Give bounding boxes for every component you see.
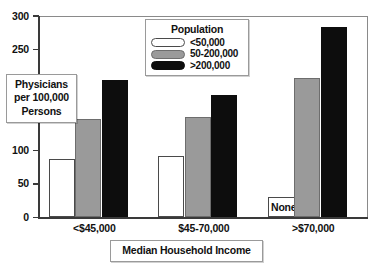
y-tick-label-250: 250 — [12, 44, 29, 55]
legend-title: Population — [151, 23, 243, 36]
y-axis-title: Physiciansper 100,000Persons — [6, 74, 77, 123]
y-axis-title-line-1: per 100,000 — [10, 91, 73, 104]
legend-swatch-icon — [151, 61, 185, 70]
y-tick-label-50: 50 — [18, 178, 29, 189]
legend-entry-label: 50-200,000 — [190, 49, 238, 59]
x-category-label: $45-70,000 — [149, 223, 258, 234]
legend: Population <50,00050-200,000>200,000 — [145, 19, 249, 76]
x-axis-title: Median Household Income — [110, 240, 263, 262]
y-tick-label-100: 100 — [12, 145, 29, 156]
y-tick-300 — [33, 15, 39, 16]
legend-entry: <50,000 — [151, 38, 243, 48]
x-axis-line — [38, 217, 368, 219]
y-axis-title-line-2: Persons — [10, 105, 73, 118]
legend-entry-label: <50,000 — [190, 38, 225, 48]
bar — [185, 117, 211, 217]
legend-entry-label: >200,000 — [190, 61, 230, 71]
y-tick-label-0: 0 — [23, 212, 29, 223]
legend-swatch-icon — [151, 38, 185, 47]
bar — [294, 78, 320, 218]
bar — [158, 156, 184, 218]
y-tick-250 — [33, 49, 39, 50]
bar — [49, 159, 75, 217]
legend-entries: <50,00050-200,000>200,000 — [151, 38, 243, 71]
x-category-label: <$45,000 — [40, 223, 149, 234]
physicians-by-income-bar-chart: 050100150250300 None <$45,000$45-70,000>… — [0, 0, 378, 270]
bar — [211, 95, 237, 217]
legend-swatch-icon — [151, 50, 185, 59]
legend-entry: 50-200,000 — [151, 49, 243, 59]
x-category-label: >$70,000 — [259, 223, 368, 234]
y-tick-label-300: 300 — [12, 11, 29, 22]
bar — [75, 119, 101, 218]
y-tick-0 — [33, 217, 39, 218]
bar-group: None — [268, 16, 347, 217]
bar — [102, 80, 128, 218]
bar — [321, 27, 347, 218]
legend-entry: >200,000 — [151, 61, 243, 71]
y-tick-50 — [33, 183, 39, 184]
y-axis-title-line-0: Physicians — [10, 78, 73, 91]
y-tick-100 — [33, 150, 39, 151]
